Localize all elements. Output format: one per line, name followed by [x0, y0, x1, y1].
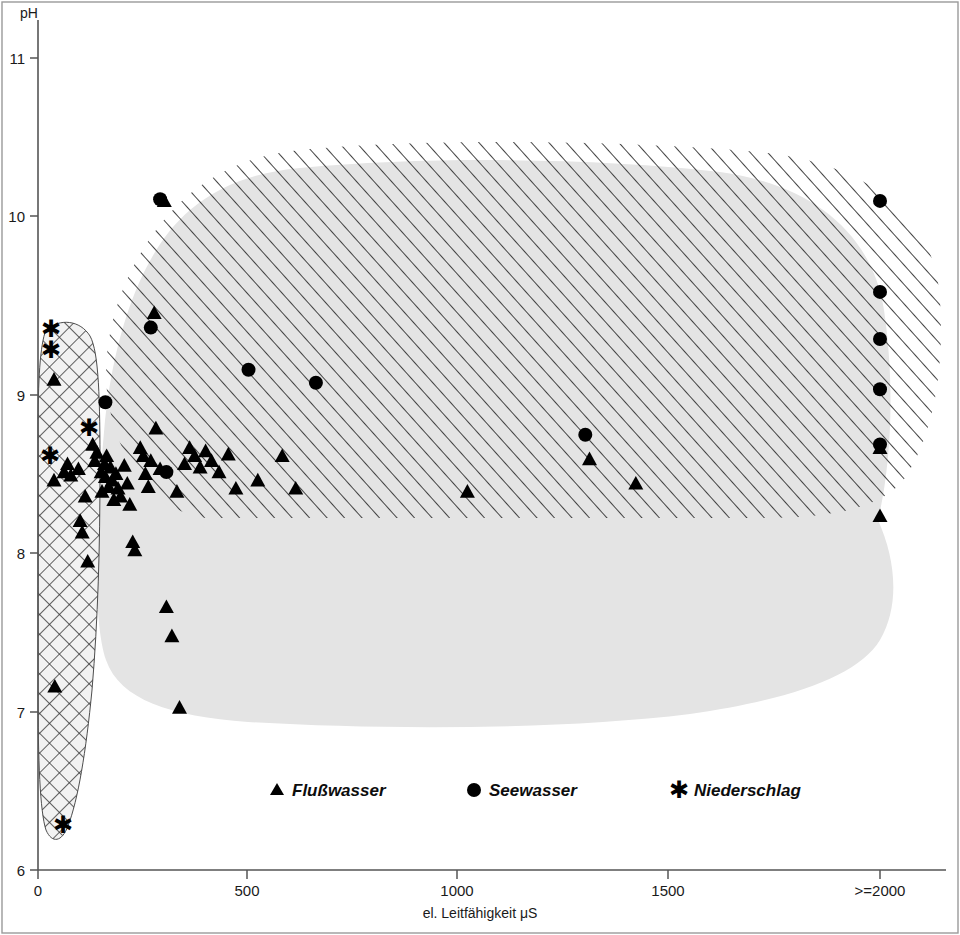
y-tick-label-8: 8: [17, 545, 25, 562]
x-tick-label-1500: 1500: [651, 882, 684, 899]
data-point-circle: [242, 363, 256, 377]
data-point-circle: [873, 194, 887, 208]
legend-item-flusswasser: Flußwasser: [270, 781, 387, 800]
x-tick-label-1000: 1000: [440, 882, 473, 899]
triangle-icon: [270, 783, 284, 795]
x-tick-label-2000: >=2000: [855, 882, 906, 899]
data-point-circle: [153, 192, 167, 206]
y-tick-label-11: 11: [9, 50, 25, 67]
ph-conductivity-scatter-chart: 6 7 8 9 10 11 pH 0 500 1000 1500 >=2000 …: [0, 0, 960, 935]
data-point-circle: [873, 285, 887, 299]
y-tick-label-7: 7: [17, 704, 25, 721]
data-point-circle: [159, 465, 173, 479]
legend-label-niederschlag: Niederschlag: [694, 781, 801, 800]
x-axis-ticks: [38, 870, 880, 879]
x-tick-label-500: 500: [234, 882, 259, 899]
data-point-circle: [873, 438, 887, 452]
region-seewasser-envelope: [90, 130, 960, 540]
asterisk-icon: ✱: [669, 776, 689, 803]
y-tick-label-9: 9: [17, 387, 25, 404]
chart-legend: Flußwasser Seewasser ✱ Niederschlag: [270, 776, 801, 803]
x-axis-caption: el. Leitfähigkeit μS: [423, 905, 538, 921]
data-point-circle: [309, 376, 323, 390]
data-point-asterisk: ✱: [40, 442, 60, 469]
legend-label-flusswasser: Flußwasser: [292, 781, 387, 800]
data-point-asterisk: ✱: [41, 336, 61, 363]
region-niederschlag-envelope: [38, 322, 100, 839]
y-tick-label-6: 6: [17, 862, 25, 879]
legend-label-seewasser: Seewasser: [489, 781, 578, 800]
data-point-circle: [873, 332, 887, 346]
circle-icon: [467, 783, 481, 797]
data-point-circle: [578, 428, 592, 442]
data-point-circle: [873, 382, 887, 396]
x-tick-label-0: 0: [34, 882, 42, 899]
legend-item-seewasser: Seewasser: [467, 781, 578, 800]
data-point-circle: [98, 395, 112, 409]
y-axis-caption: pH: [20, 5, 38, 21]
data-point-asterisk: ✱: [53, 811, 73, 838]
legend-item-niederschlag: ✱ Niederschlag: [669, 776, 801, 803]
data-point-asterisk: ✱: [79, 414, 99, 441]
data-point-circle: [144, 321, 158, 335]
y-axis-ticks: [30, 58, 38, 870]
y-tick-label-10: 10: [8, 208, 25, 225]
chart-root: 6 7 8 9 10 11 pH 0 500 1000 1500 >=2000 …: [0, 0, 960, 935]
